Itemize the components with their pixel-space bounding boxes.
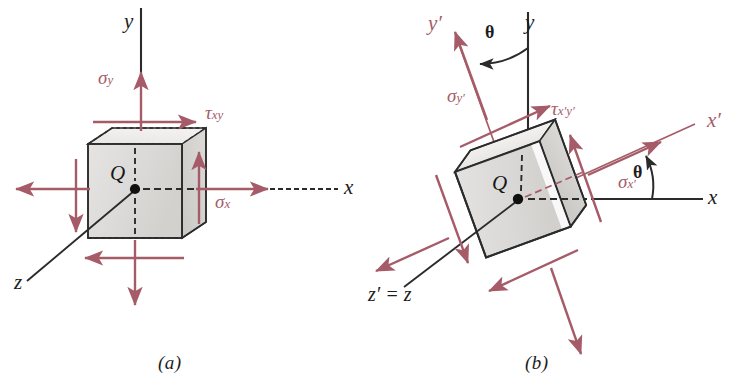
sigma-glyph: σ bbox=[447, 85, 456, 106]
arrow-tau-bottom bbox=[489, 250, 578, 291]
panel-b-graphics bbox=[365, 0, 730, 389]
panel-a-label-tau-xy: τxy bbox=[205, 103, 223, 122]
panel-a-point-q bbox=[130, 184, 140, 194]
sigma-glyph: σ bbox=[98, 67, 107, 88]
arrow-sigma-yprime-top bbox=[455, 32, 487, 120]
panel-b-label-x-prime: x′ bbox=[707, 110, 721, 131]
panel-b-caption: (b) bbox=[525, 352, 549, 374]
panel-a-label-x: x bbox=[344, 177, 353, 198]
panel-b-label-sigma-x-prime: σx′ bbox=[618, 172, 636, 191]
panel-a-label-q: Q bbox=[110, 163, 125, 184]
panel-b-label-tau-x-prime-y-prime: τx′y′ bbox=[551, 99, 575, 118]
arrow-sigma-xprime-left bbox=[376, 238, 449, 271]
sigma-yprime-subscript: y′ bbox=[456, 90, 465, 105]
sigma-xprime-subscript: x′ bbox=[627, 176, 636, 191]
panel-a-graphics bbox=[0, 0, 365, 389]
panel-a-stress-element bbox=[88, 128, 206, 238]
panel-b-label-q: Q bbox=[492, 173, 507, 194]
sigma-y-subscript: y bbox=[107, 72, 113, 87]
panel-a-label-z: z bbox=[14, 272, 22, 293]
panel-b-label-sigma-y-prime: σy′ bbox=[447, 86, 465, 105]
panel-b-point-q bbox=[513, 194, 523, 204]
panel-a-label-y: y bbox=[124, 11, 133, 32]
tau-glyph: τ bbox=[551, 98, 558, 119]
sigma-glyph: σ bbox=[618, 171, 627, 192]
tau-xpyp-subscript: x′y′ bbox=[558, 103, 575, 118]
panel-a-label-sigma-x: σx bbox=[215, 192, 230, 211]
panel-b-label-theta-top: θ bbox=[485, 23, 494, 41]
panel-b-label-y-prime: y′ bbox=[428, 13, 442, 34]
cube-right-face bbox=[182, 128, 206, 238]
sigma-glyph: σ bbox=[215, 191, 224, 212]
panel-a-label-sigma-y: σy bbox=[98, 68, 113, 87]
panel-b-label-y: y bbox=[525, 12, 534, 33]
sigma-x-subscript: x bbox=[224, 196, 230, 211]
panel-b-theta-top bbox=[480, 48, 528, 64]
panel-a-caption: (a) bbox=[158, 352, 182, 374]
figure-canvas: y x z Q σy σx τxy (a) bbox=[0, 0, 730, 389]
tau-glyph: τ bbox=[205, 102, 212, 123]
panel-b-theta-right bbox=[646, 156, 653, 199]
panel-b-label-x: x bbox=[708, 187, 717, 208]
panel-b-label-z-prime-eq-z: z′ = z bbox=[368, 284, 411, 304]
tau-xy-subscript: xy bbox=[212, 107, 223, 122]
arrow-sigma-yprime-bottom bbox=[551, 268, 581, 354]
